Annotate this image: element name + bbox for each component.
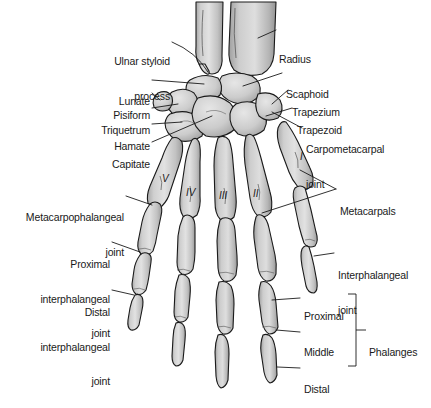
finger-iv-proximal-phalanx xyxy=(177,215,195,274)
trapezium-bone xyxy=(256,93,282,120)
forearm-bones xyxy=(196,2,276,75)
metacarpal-numeral-v: V xyxy=(162,174,169,184)
label-distal-interphalangeal-joint: Distal interphalangeal joint xyxy=(20,284,110,399)
radius-bone xyxy=(229,2,276,75)
leader-proximal-phalanx xyxy=(272,298,300,300)
finger-v-middle-phalanx xyxy=(132,253,151,295)
finger-iv-middle-phalanx xyxy=(174,275,190,323)
metacarpal-numeral-ii: II xyxy=(253,189,259,199)
leader-middle-phalanx xyxy=(276,330,300,332)
thumb-distal-phalanx xyxy=(301,246,317,293)
metacarpal-iii-bone xyxy=(214,136,236,220)
metacarpal-ii-bone xyxy=(244,134,272,217)
metacarpal-numeral-iii: III xyxy=(219,191,227,201)
metacarpal-numeral-iv: IV xyxy=(186,188,195,198)
label-metacarpals: Metacarpals xyxy=(340,183,396,229)
label-interphalangeal-joint: Interphalangeal joint xyxy=(338,247,408,328)
leader-dip-joint xyxy=(112,290,134,295)
carpal-bones xyxy=(153,73,282,141)
leader-interphalangeal xyxy=(314,253,334,256)
ulna-bone xyxy=(196,2,223,74)
leader-distal-phalanx xyxy=(277,367,300,368)
finger-iv-distal-phalanx xyxy=(172,322,185,366)
finger-v-distal-phalanx xyxy=(128,294,143,330)
metacarpal-numeral-i: I xyxy=(300,152,303,162)
finger-v-proximal-phalanx xyxy=(138,202,162,255)
finger-iii-distal-phalanx xyxy=(215,334,229,388)
hand-bones-diagram: Ulnar styloid process Lunate Pisiform Tr… xyxy=(0,0,431,408)
finger-ii-distal-phalanx xyxy=(261,334,277,383)
label-phalanges: Phalanges xyxy=(369,324,417,370)
label-capitate: Capitate xyxy=(58,136,150,182)
finger-iii-proximal-phalanx xyxy=(217,218,237,282)
label-distal-phalanx: Distal xyxy=(304,361,329,407)
